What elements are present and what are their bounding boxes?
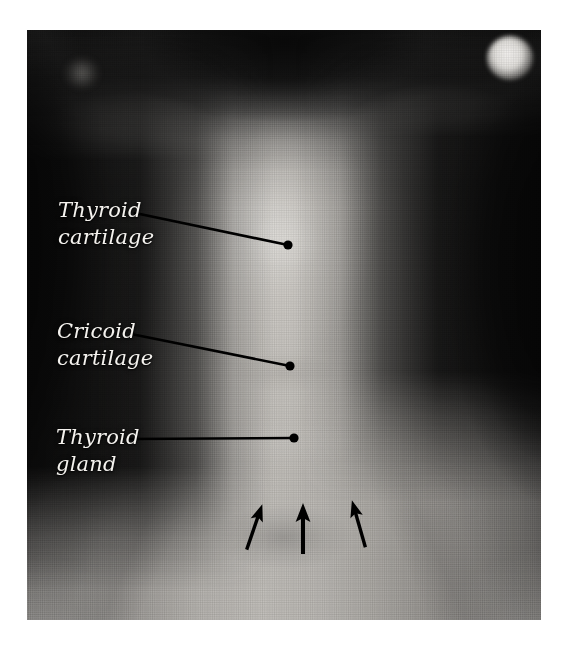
callout-label-cricoid-cartilage: Cricoid cartilage: [57, 318, 153, 372]
callout-label-thyroid-cartilage: Thyroid cartilage: [58, 197, 154, 251]
callout-label-thyroid-gland: Thyroid gland: [56, 424, 140, 478]
figure-root: Thyroid cartilage Cricoid cartilage Thyr…: [0, 0, 564, 652]
